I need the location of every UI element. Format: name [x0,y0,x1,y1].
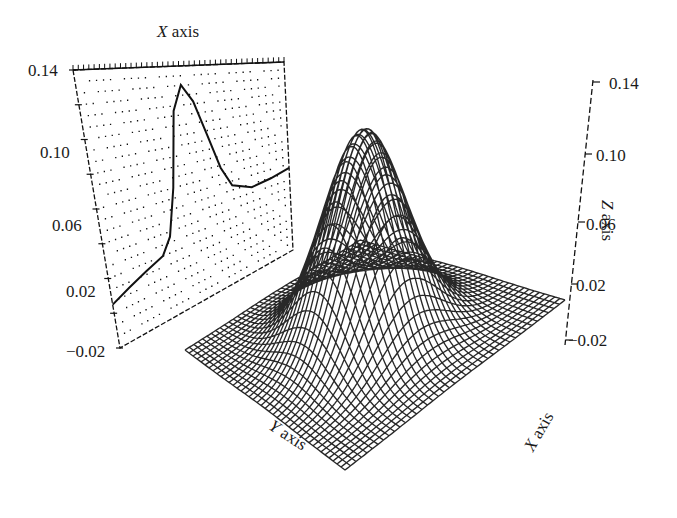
projection-panel [69,57,293,348]
right-tick-neg0.02: −0.02 [568,331,607,351]
z-axis-label: Z axis [597,200,617,241]
left-tick-0.06: 0.06 [52,216,82,236]
left-tick-0.14: 0.14 [28,61,58,81]
surface-plot [0,0,677,518]
left-tick-neg0.02: −0.02 [66,342,105,362]
panel-axis-text: axis [167,22,199,41]
right-tick-0.10: 0.10 [596,146,626,166]
gaussian-surface [185,129,565,470]
left-tick-0.02: 0.02 [66,282,96,302]
panel-axis-title: X axis [157,22,199,42]
right-tick-0.02: 0.02 [576,276,606,296]
panel-axis-var: X [157,22,167,41]
left-tick-0.10: 0.10 [40,143,70,163]
z-axis-line [565,80,600,345]
chart-figure: X axis 0.14 0.10 0.06 0.02 −0.02 0.14 0.… [0,0,677,518]
z-axis-text: axis [598,209,617,241]
right-tick-0.14: 0.14 [609,74,639,94]
